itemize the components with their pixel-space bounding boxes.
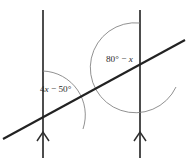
transversal-line xyxy=(3,40,185,139)
angle-label-right-constant: 80° − xyxy=(106,54,129,64)
angle-label-left-constant: − 50° xyxy=(49,84,72,94)
angle-arc-left xyxy=(43,71,85,129)
geometry-figure: 4x − 50° 80° − x xyxy=(0,0,187,164)
angle-label-right-variable: x xyxy=(128,54,134,64)
angle-label-left: 4x − 50° xyxy=(40,84,72,94)
diagram-canvas: 4x − 50° 80° − x xyxy=(0,0,187,164)
angle-label-right: 80° − x xyxy=(106,54,134,64)
